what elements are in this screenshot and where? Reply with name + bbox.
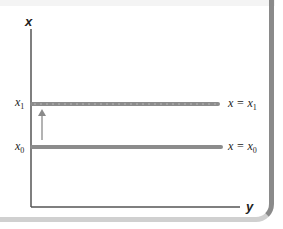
- x0-equation-label: x = x0: [228, 139, 257, 155]
- x0-axis-label: x0: [15, 139, 24, 155]
- vertical-axis-label: x: [25, 14, 32, 29]
- horizontal-axis-label: y: [246, 199, 253, 214]
- up-arrow-icon: [38, 109, 46, 140]
- diagram-canvas: [0, 0, 283, 229]
- x1-equation-label: x = x1: [228, 96, 257, 112]
- x1-axis-label: x1: [15, 95, 24, 111]
